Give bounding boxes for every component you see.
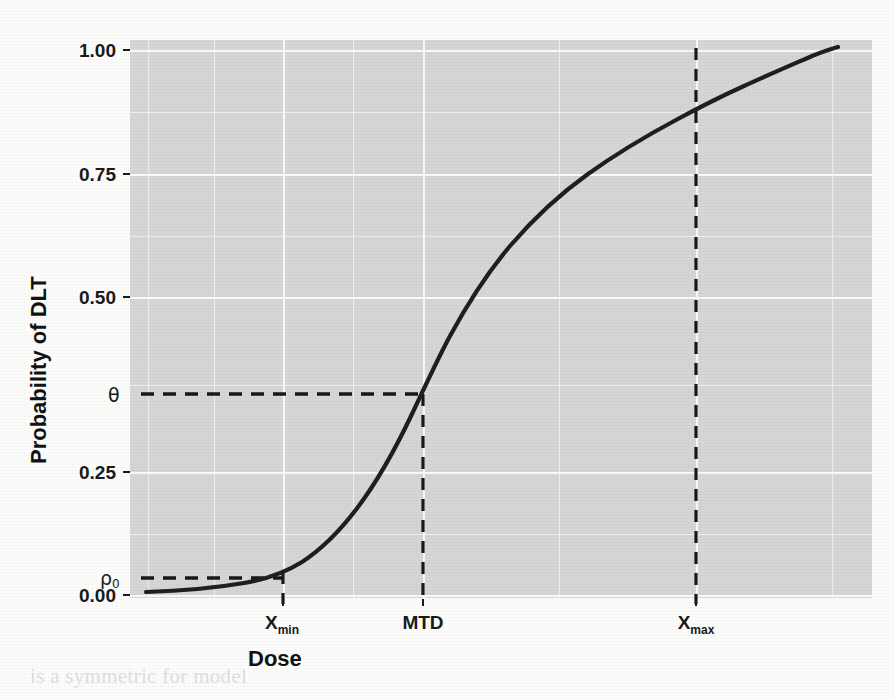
gridline-x-mtd: [423, 40, 425, 598]
scanned-page: different hypotheses dose estimation lev…: [0, 0, 894, 699]
x-tick-label-xmin: Xmin: [232, 612, 332, 637]
y-tick-mark-075: [123, 173, 130, 175]
gridline-x-xmax: [696, 40, 698, 598]
gridline-x-minor: [148, 40, 149, 598]
x-tick-label-xmax: Xmax: [646, 612, 746, 637]
x-tick-mark-mtd: [422, 599, 424, 606]
y-axis-title: Probability of DLT: [26, 276, 52, 464]
gridline-x-minor: [353, 40, 354, 598]
xmin-base: X: [265, 612, 278, 633]
gridline-y-minor: [130, 385, 872, 386]
gridline-x-xmin: [283, 40, 285, 598]
gridline-y-minor: [130, 534, 872, 535]
gridline-x-minor: [832, 40, 833, 598]
gridline-x-minor: [559, 40, 560, 598]
y-tick-mark-100: [123, 49, 130, 51]
rho-subscript: 0: [112, 577, 120, 591]
x-tick-label-mtd: MTD: [373, 612, 473, 634]
xmin-subscript: min: [278, 623, 299, 637]
gridline-y-minor: [130, 112, 872, 113]
x-axis-title: Dose: [248, 646, 302, 672]
plot-panel: [130, 40, 872, 598]
gridline-y-100: [130, 50, 872, 52]
x-tick-mark-xmin: [282, 599, 284, 606]
theta-label: θ: [108, 384, 120, 406]
gridline-y-025: [130, 472, 872, 474]
y-tick-mark-000: [123, 594, 130, 596]
mtd-base: MTD: [402, 612, 443, 633]
xmax-base: X: [678, 612, 691, 633]
theta-symbol: θ: [108, 384, 120, 406]
rho-zero-label: ρ0: [100, 567, 120, 589]
bleed-line: is a symmetric for model: [30, 664, 247, 689]
y-tick-mark-025: [123, 471, 130, 473]
gridline-x-minor: [214, 40, 215, 598]
x-tick-mark-xmax: [695, 599, 697, 606]
y-tick-label-100: 1.00: [38, 40, 116, 62]
gridline-y-minor: [130, 236, 872, 237]
y-tick-label-025: 0.25: [38, 462, 116, 484]
y-tick-mark-050: [123, 296, 130, 298]
rho-symbol: ρ: [100, 567, 112, 589]
xmax-subscript: max: [690, 623, 714, 637]
y-tick-label-075: 0.75: [38, 164, 116, 186]
gridline-y-0: [130, 595, 872, 597]
gridline-y-050: [130, 297, 872, 299]
gridline-y-075: [130, 174, 872, 176]
